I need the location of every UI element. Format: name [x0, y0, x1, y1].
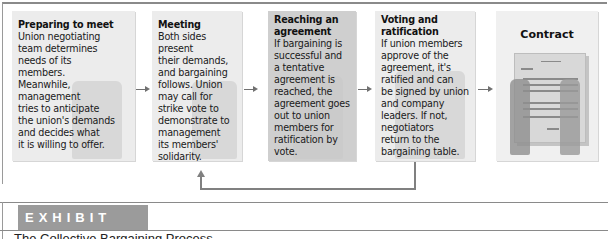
step-title: Preparing to meet [18, 19, 130, 31]
step-line: and company [381, 98, 470, 110]
step-line: and bargaining [158, 67, 237, 79]
arrow-right-icon [358, 89, 368, 90]
arrow-up-icon [197, 170, 205, 177]
step-line: a tentative [274, 62, 351, 74]
step-line: agreement, it's [381, 62, 470, 74]
step-line: may call for [158, 91, 237, 103]
step-line: out to union [274, 110, 351, 122]
exhibit-label: EXHIBIT 10.8 [18, 205, 148, 230]
step-line: its members' [158, 139, 237, 151]
step-line: Union negotiating [18, 31, 130, 43]
arrow-right-icon [136, 89, 146, 90]
step-line: follows. Union [158, 79, 237, 91]
step-line: their demands, [158, 55, 237, 67]
step-line: members for [274, 122, 351, 134]
loop-arrow-segment [200, 188, 416, 190]
step-line: approve of the [381, 50, 470, 62]
step-title: Contract [496, 28, 598, 41]
step-line: return to the [381, 134, 470, 146]
step-meeting: Meeting Both sides present their demands… [152, 11, 242, 161]
step-line: bargaining table. [381, 146, 470, 158]
loop-arrow-segment [200, 176, 202, 190]
exhibit-caption: The Collective Bargaining Process [14, 231, 213, 239]
step-line: and decides what [18, 127, 130, 139]
arrow-right-icon [244, 89, 254, 90]
step-line: management [158, 127, 237, 139]
person-handshake-right-icon [560, 79, 580, 155]
step-line: If union members [381, 38, 470, 50]
step-voting-ratification: Voting and ratification If union members… [375, 11, 475, 161]
step-line: tries to anticipate [18, 103, 130, 115]
loop-arrow-segment [414, 162, 416, 189]
step-line: leaders. If not, [381, 110, 470, 122]
step-line: reached, the [274, 86, 351, 98]
arrow-right-icon [478, 89, 489, 90]
step-line: ratified and can [381, 74, 470, 86]
step-line: agreement is [274, 74, 351, 86]
step-line: demonstrate to [158, 115, 237, 127]
step-line: team determines [18, 43, 130, 55]
step-line: vote. [274, 146, 351, 158]
step-line: agreement goes [274, 98, 351, 110]
step-line: management [18, 91, 130, 103]
step-line: be signed by union [381, 86, 470, 98]
step-title: Reaching an [274, 14, 351, 26]
step-line: the union's demands [18, 115, 130, 127]
step-line: If bargaining is [274, 38, 351, 50]
divider [0, 202, 608, 203]
step-line: solidarity. [158, 151, 237, 161]
step-line: Both sides present [158, 31, 237, 55]
step-title: agreement [274, 26, 351, 38]
person-handshake-left-icon [510, 79, 530, 155]
step-preparing-to-meet: Preparing to meet Union negotiating team… [12, 11, 135, 161]
step-line: successful and [274, 50, 351, 62]
step-line: it is willing to offer. [18, 139, 130, 151]
step-title: ratification [381, 26, 470, 38]
step-line: needs of its [18, 55, 130, 67]
step-line: strike vote to [158, 103, 237, 115]
divider [2, 202, 3, 239]
step-title: Voting and [381, 14, 470, 26]
step-line: members. [18, 67, 130, 79]
step-line: negotiators [381, 122, 470, 134]
step-reaching-agreement: Reaching an agreement If bargaining is s… [268, 11, 356, 161]
step-line: ratification by [274, 134, 351, 146]
step-line: Meanwhile, [18, 79, 130, 91]
step-title: Meeting [158, 19, 237, 31]
step-contract: Contract [496, 11, 598, 161]
